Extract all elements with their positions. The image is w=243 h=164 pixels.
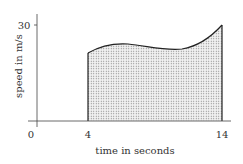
y-tick-label-30: 30 xyxy=(18,20,31,31)
x-tick-label-14: 14 xyxy=(216,129,229,140)
y-axis-title: speed in m/s xyxy=(13,34,24,98)
x-axis-title: time in seconds xyxy=(95,145,174,156)
speed-time-chart: 30 0 4 14 time in seconds speed in m/s xyxy=(0,0,243,164)
x-tick-label-0: 0 xyxy=(28,129,34,140)
shaded-area xyxy=(88,25,222,121)
x-tick-label-4: 4 xyxy=(85,129,91,140)
